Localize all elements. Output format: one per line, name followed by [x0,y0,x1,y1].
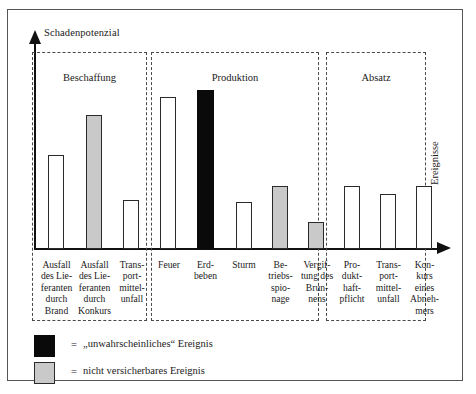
group-title-absatz: Absatz [326,72,426,83]
bar [86,115,102,249]
legend-item-nicht-versicherbar: = nicht versicherbares Ereignis [34,362,324,384]
category-label: Vergif-tung des Brun-nens [300,259,334,305]
bar [272,186,288,249]
chart-figure: Schadenpotenzial Ereignisse Beschaffung … [0,0,476,394]
bar [380,194,396,249]
legend-equals-sign: = [71,366,77,377]
category-label: Sturm [227,259,261,270]
category-label: Erd-beben [190,259,221,282]
legend-label: „unwahrscheinliches“ Ereignis [83,338,213,349]
category-label: Feuer [154,259,184,270]
bar [48,155,64,249]
category-label: Trans-port-mittel-unfall [115,259,149,305]
bar [416,186,432,249]
figure-border: Schadenpotenzial Ereignisse Beschaffung … [7,9,463,381]
legend-swatch-black [34,335,55,357]
group-title-beschaffung: Beschaffung [32,72,147,83]
category-label: Ausfall des Lie-feranten durch Brand [39,259,74,316]
legend-swatch-gray [34,362,55,384]
legend-equals-sign: = [71,339,77,350]
group-title-produktion: Produktion [151,72,319,83]
legend-item-unwahrscheinlich: = „unwahrscheinliches“ Ereignis [34,335,324,357]
category-label: Be-triebs-spio-nage [265,259,296,305]
category-label: Trans-port-mittel-unfall [372,259,405,305]
bar [160,97,176,249]
x-axis-arrow-icon [437,242,451,254]
bar [344,186,360,249]
bar [197,90,214,249]
legend-label: nicht versicherbares Ereignis [83,365,205,376]
category-label: Pro-dukt-haft-pflicht [336,259,368,305]
category-label: Kon-kurs eines Abneh-mers [408,259,441,316]
category-label: Ausfall des Lie-feranten durch Konkurs [77,259,112,316]
bar [308,222,324,249]
y-axis-title: Schadenpotenzial [44,27,120,38]
x-axis-title: Ereignisse [429,141,440,185]
bar [123,200,139,249]
bar [236,202,252,249]
